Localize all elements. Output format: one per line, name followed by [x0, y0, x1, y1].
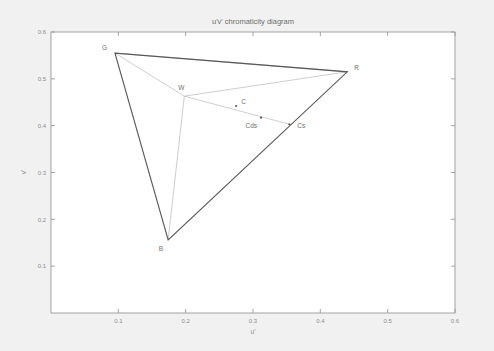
point-label-cs: Cs [297, 122, 306, 129]
chromaticity-figure: u'v' chromaticity diagram 0.10.20.30.40.… [0, 0, 494, 351]
point-label-cds: Cds [246, 122, 258, 129]
x-tick-label: 0.5 [383, 318, 392, 324]
marker-cds [260, 117, 262, 119]
x-axis-label: u' [251, 328, 256, 335]
x-tick-label: 0.2 [181, 318, 190, 324]
chart-svg: u'v' chromaticity diagram 0.10.20.30.40.… [0, 0, 494, 351]
marker-cs [288, 123, 290, 125]
chart-title: u'v' chromaticity diagram [212, 17, 294, 26]
y-tick-label: 0.3 [38, 170, 47, 176]
x-tick-label: 0.1 [114, 318, 123, 324]
x-tick-label: 0.6 [451, 318, 460, 324]
plot-area-background [51, 32, 455, 313]
y-tick-label: 0.6 [38, 29, 47, 35]
x-tick-label: 0.3 [249, 318, 258, 324]
point-label-b: B [159, 245, 163, 252]
y-tick-label: 0.5 [38, 76, 47, 82]
point-label-w: W [178, 84, 185, 91]
point-label-g: G [102, 44, 107, 51]
y-tick-label: 0.2 [38, 217, 47, 223]
marker-c [235, 105, 237, 107]
y-axis-label: v' [20, 170, 27, 175]
point-label-r: R [354, 64, 359, 71]
x-tick-label: 0.4 [316, 318, 325, 324]
point-label-c: C [241, 98, 246, 105]
y-tick-label: 0.4 [38, 123, 47, 129]
y-tick-label: 0.1 [38, 263, 47, 269]
